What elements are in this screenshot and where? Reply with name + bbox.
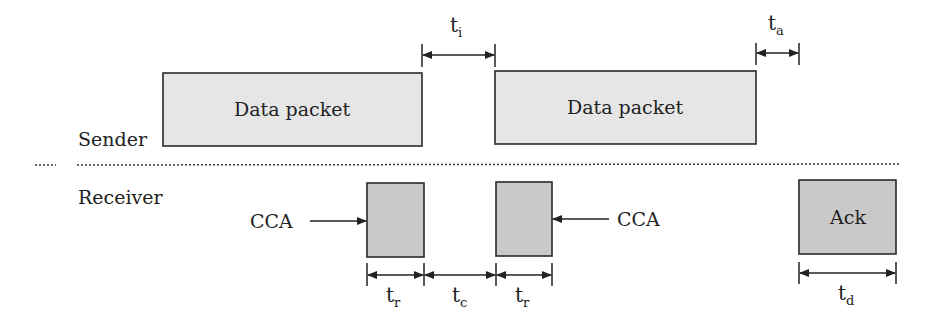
sender-lane-label: Sender	[78, 128, 148, 150]
interval-t-i: ti	[422, 13, 495, 67]
interval-t-r-2: tr	[497, 275, 551, 310]
cca-label: CCA	[617, 208, 660, 230]
svg-text:tr: tr	[386, 283, 401, 310]
svg-text:tr: tr	[515, 283, 530, 310]
packet-label: Data packet	[234, 98, 350, 120]
ack-label: Ack	[829, 206, 866, 228]
csma-timing-diagram: Sender Receiver Data packet Data packet …	[0, 0, 937, 325]
svg-text:td: td	[838, 281, 854, 308]
cca-pointer-left: CCA	[250, 210, 366, 232]
cca-pointer-right: CCA	[553, 208, 660, 230]
svg-text:ta: ta	[768, 11, 784, 38]
lane-divider	[35, 164, 900, 165]
packet-label: Data packet	[567, 96, 683, 118]
sender-packet-1: Data packet	[163, 73, 422, 146]
svg-text:tc: tc	[452, 283, 467, 310]
receiver-lane-label: Receiver	[78, 186, 163, 208]
interval-t-c: tc	[425, 275, 495, 310]
receiver-cca-box-1	[367, 183, 424, 257]
interval-t-a: ta	[756, 11, 799, 65]
interval-t-d: td	[799, 262, 896, 308]
ack-box: Ack	[799, 180, 896, 254]
receiver-cca-box-2	[496, 182, 552, 256]
sender-packet-2: Data packet	[495, 71, 756, 144]
cca-label: CCA	[250, 210, 293, 232]
interval-t-r-1: tr	[368, 275, 423, 310]
svg-text:ti: ti	[450, 13, 462, 40]
